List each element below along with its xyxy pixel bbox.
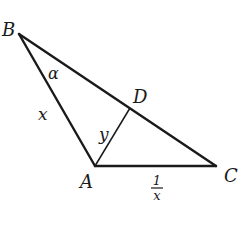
side-label-AC-numerator: 1 [153,173,161,188]
edge-BA [19,34,95,166]
edge-BC [19,34,216,166]
side-label-AD: y [98,124,109,144]
vertex-label-D: D [132,86,148,107]
vertex-label-B: B [1,19,15,40]
vertex-label-C: C [224,165,238,186]
angle-label-alpha: α [48,64,59,83]
side-label-AC-denominator: x [153,188,161,203]
side-label-BA: x [38,104,48,124]
vertex-label-A: A [78,171,93,192]
triangle-diagram: B A C D α x y 1 x [0,0,251,225]
